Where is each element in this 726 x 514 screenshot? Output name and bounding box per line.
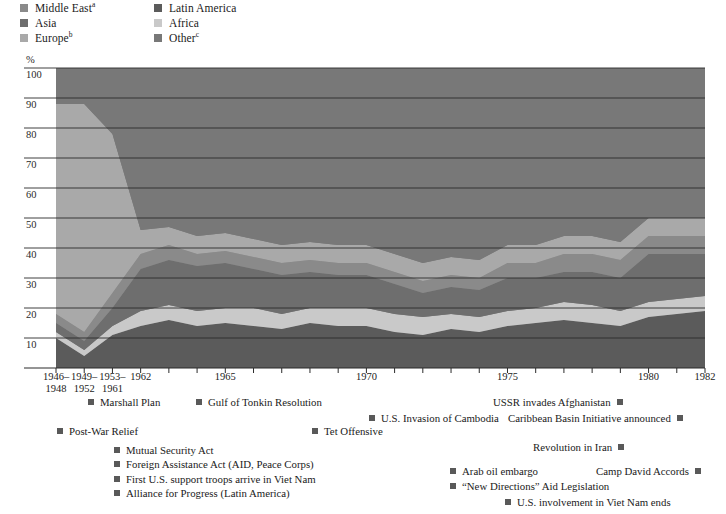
event-marker-icon <box>369 415 375 421</box>
event-marker-icon <box>57 428 63 434</box>
x-tick-line1: 1980 <box>627 371 671 383</box>
legend-sup-middle-east: a <box>92 0 95 9</box>
figure-root: Middle Easta Asia Europeb Latin America … <box>0 0 726 514</box>
y-tick-label: 30 <box>26 279 37 290</box>
event-annotation[interactable]: Post-War Relief <box>57 425 138 437</box>
legend-column-left: Middle Easta Asia Europeb <box>20 1 95 46</box>
event-marker-icon <box>88 399 94 405</box>
legend-item-middle-east[interactable]: Middle Easta <box>20 1 95 15</box>
event-label: Camp David Accords <box>596 465 689 477</box>
y-tick-label: 80 <box>26 129 37 140</box>
y-tick-label: 60 <box>26 189 37 200</box>
event-label: Alliance for Progress (Latin America) <box>126 487 290 499</box>
event-annotation[interactable]: Caribbean Basin Initiative announced <box>508 412 683 424</box>
legend-sup-europe: b <box>69 30 73 39</box>
event-label: Arab oil embargo <box>462 465 538 477</box>
x-tick-line1: 1962 <box>119 371 163 383</box>
event-annotations: Marshall PlanGulf of Tonkin ResolutionUS… <box>0 396 726 514</box>
event-annotation[interactable]: Marshall Plan <box>88 396 160 408</box>
y-tick-label: 90 <box>26 99 37 110</box>
event-label: First U.S. support troops arrive in Viet… <box>126 473 316 485</box>
event-annotation[interactable]: U.S. involvement in Viet Nam ends <box>505 496 671 508</box>
event-marker-icon <box>196 399 202 405</box>
event-marker-icon <box>114 447 120 453</box>
x-tick-line1: 1965 <box>203 371 247 383</box>
event-marker-icon <box>618 444 624 450</box>
event-label: Tet Offensive <box>324 425 383 437</box>
event-label: Post-War Relief <box>69 425 138 437</box>
event-marker-icon <box>617 399 623 405</box>
event-annotation[interactable]: First U.S. support troops arrive in Viet… <box>114 473 316 485</box>
x-tick-label: 1980 <box>627 371 671 383</box>
event-label: U.S. Invasion of Cambodia <box>381 412 499 424</box>
event-label: U.S. involvement in Viet Nam ends <box>517 496 671 508</box>
legend-label-europe: Europeb <box>35 32 73 44</box>
event-annotation[interactable]: U.S. Invasion of Cambodia <box>369 412 499 424</box>
x-tick-label: 1965 <box>203 371 247 383</box>
x-tick-label: 1975 <box>485 371 529 383</box>
legend-label-middle-east: Middle Easta <box>35 2 95 14</box>
x-tick-line1: 1982 <box>683 371 726 383</box>
event-annotation[interactable]: Alliance for Progress (Latin America) <box>114 487 290 499</box>
event-label: “New Directions” Aid Legislation <box>462 480 609 492</box>
y-tick-label: 100 <box>26 69 42 80</box>
y-tick-label: 10 <box>26 339 37 350</box>
stacked-area-chart <box>0 52 726 382</box>
event-annotation[interactable]: Revolution in Iran <box>533 441 624 453</box>
event-label: Revolution in Iran <box>533 441 612 453</box>
legend-item-latin-america[interactable]: Latin America <box>154 1 236 15</box>
event-marker-icon <box>677 415 683 421</box>
event-label: Caribbean Basin Initiative announced <box>508 412 671 424</box>
x-axis-labels: 1946–19481949–19521953–19611962196519701… <box>0 369 726 397</box>
legend-label-africa: Africa <box>169 17 199 29</box>
event-label: Foreign Assistance Act (AID, Peace Corps… <box>126 458 314 470</box>
legend-swatch-middle-east <box>20 4 28 12</box>
event-annotation[interactable]: Foreign Assistance Act (AID, Peace Corps… <box>114 458 314 470</box>
legend-swatch-asia <box>20 19 28 27</box>
event-marker-icon <box>114 476 120 482</box>
x-tick-line1: 1970 <box>344 371 388 383</box>
event-marker-icon <box>312 428 318 434</box>
legend-swatch-latin-america <box>154 4 162 12</box>
x-tick-line2: 1961 <box>90 383 134 395</box>
event-annotation[interactable]: “New Directions” Aid Legislation <box>450 480 609 492</box>
event-annotation[interactable]: Tet Offensive <box>312 425 383 437</box>
event-annotation[interactable]: Camp David Accords <box>596 465 701 477</box>
legend-swatch-africa <box>154 19 162 27</box>
legend-item-africa[interactable]: Africa <box>154 16 236 30</box>
x-tick-label: 1962 <box>119 371 163 383</box>
event-marker-icon <box>114 461 120 467</box>
x-tick-label: 1982 <box>683 371 726 383</box>
event-marker-icon <box>450 468 456 474</box>
legend-label-asia: Asia <box>35 17 56 29</box>
legend: Middle Easta Asia Europeb Latin America … <box>20 1 280 45</box>
event-marker-icon <box>695 468 701 474</box>
legend-item-europe[interactable]: Europeb <box>20 31 95 45</box>
event-annotation[interactable]: Mutual Security Act <box>114 444 214 456</box>
legend-sup-other: c <box>196 30 199 39</box>
legend-swatch-other <box>154 34 162 42</box>
y-tick-label: 40 <box>26 249 37 260</box>
y-axis-unit: % <box>26 54 35 65</box>
event-annotation[interactable]: USSR invades Afghanistan <box>493 396 623 408</box>
legend-label-latin-america: Latin America <box>169 2 236 14</box>
legend-swatch-europe <box>20 34 28 42</box>
legend-item-other[interactable]: Otherc <box>154 31 236 45</box>
y-tick-label: 20 <box>26 309 37 320</box>
legend-item-asia[interactable]: Asia <box>20 16 95 30</box>
event-annotation[interactable]: Arab oil embargo <box>450 465 538 477</box>
legend-label-other: Otherc <box>169 32 199 44</box>
event-annotation[interactable]: Gulf of Tonkin Resolution <box>196 396 322 408</box>
x-tick-label: 1970 <box>344 371 388 383</box>
event-marker-icon <box>505 499 511 505</box>
event-label: Mutual Security Act <box>126 444 214 456</box>
event-label: Marshall Plan <box>100 396 160 408</box>
chart-plot-area: %100908070605040302010 <box>0 52 726 382</box>
event-label: USSR invades Afghanistan <box>493 396 611 408</box>
y-tick-label: 70 <box>26 159 37 170</box>
event-label: Gulf of Tonkin Resolution <box>208 396 322 408</box>
x-tick-line1: 1975 <box>485 371 529 383</box>
y-tick-label: 50 <box>26 219 37 230</box>
event-marker-icon <box>114 490 120 496</box>
legend-column-right: Latin America Africa Otherc <box>154 1 236 46</box>
